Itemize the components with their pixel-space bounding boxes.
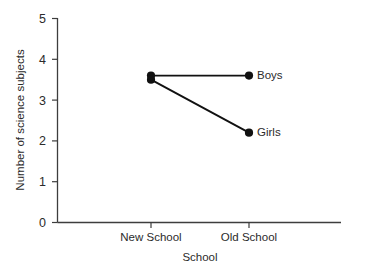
- y-tick-label-1: 1: [39, 175, 46, 189]
- x-tick-label-old-school: Old School: [221, 231, 277, 243]
- series-boys: [147, 72, 253, 80]
- series-girls-point-old-school: [245, 129, 253, 137]
- series-girls-point-new-school: [147, 76, 155, 84]
- line-chart: 5 4 3 2 1 0 New School Old School School…: [0, 0, 365, 274]
- y-tick-label-5: 5: [39, 12, 46, 26]
- series-girls-line: [151, 80, 249, 133]
- y-axis-ticks: [52, 19, 58, 223]
- chart-canvas: 5 4 3 2 1 0 New School Old School School…: [0, 0, 365, 274]
- y-tick-label-0: 0: [39, 216, 46, 230]
- series-label-boys: Boys: [257, 69, 283, 81]
- series-boys-point-old-school: [245, 72, 253, 80]
- series-label-girls: Girls: [257, 126, 281, 138]
- y-axis-title: Number of science subjects: [14, 49, 26, 191]
- y-tick-label-4: 4: [39, 53, 46, 67]
- x-axis-title: School: [182, 251, 217, 263]
- x-axis-ticks: [151, 223, 249, 229]
- y-tick-label-3: 3: [39, 94, 46, 108]
- x-tick-label-new-school: New School: [120, 231, 181, 243]
- y-tick-label-2: 2: [39, 134, 46, 148]
- series-girls: [147, 76, 253, 137]
